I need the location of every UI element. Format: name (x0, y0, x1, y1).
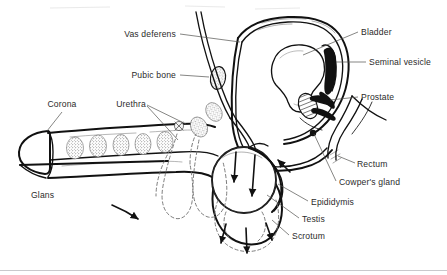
urethra-cross-section (174, 121, 183, 130)
leader-vas-deferens (180, 34, 240, 42)
leader-urethra-a (147, 105, 186, 124)
label-glans: Glans (31, 190, 54, 200)
leader-rectum (338, 156, 355, 163)
anatomy-diagram-canvas: Vas deferens Pubic bone Corona Urethra G… (0, 0, 447, 275)
leader-pubic-bone (180, 75, 209, 77)
cowpers-gland-body (310, 130, 316, 136)
arrow-scrotum-right (266, 223, 272, 240)
label-urethra: Urethra (116, 99, 146, 109)
anatomy-figure: Vas deferens Pubic bone Corona Urethra G… (0, 0, 447, 275)
scan-artifacts (50, 6, 300, 9)
leader-cowpers (314, 134, 336, 181)
label-bladder: Bladder (361, 27, 392, 37)
label-epididymis: Epididymis (311, 197, 354, 207)
label-pubic-bone: Pubic bone (131, 70, 176, 80)
label-seminal-vesicle: Seminal vesicle (369, 57, 431, 67)
rectum-curve (328, 96, 386, 163)
label-rectum: Rectum (357, 159, 388, 169)
label-cowpers-gland: Cowper's gland (339, 177, 400, 187)
label-corona: Corona (47, 99, 76, 109)
label-vas-deferens: Vas deferens (124, 29, 176, 39)
direction-arrow (112, 205, 138, 219)
leader-testis (267, 195, 299, 218)
leader-corona (47, 112, 62, 131)
arrow-scrotum-mid (246, 228, 247, 253)
bottom-rule (0, 270, 447, 271)
label-prostate: Prostate (361, 92, 394, 102)
label-testis: Testis (302, 214, 325, 224)
label-scrotum: Scrotum (292, 231, 325, 241)
